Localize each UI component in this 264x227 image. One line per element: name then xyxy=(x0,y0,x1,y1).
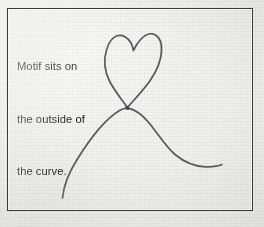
figure-screenshot: Motif sits on the outside of the curve. xyxy=(0,0,264,227)
caption-line-3: the curve. xyxy=(17,163,113,181)
caption-text: Motif sits on the outside of the curve. xyxy=(17,23,113,216)
caption-line-2: the outside of xyxy=(17,111,113,129)
caption-line-1: Motif sits on xyxy=(17,58,113,76)
